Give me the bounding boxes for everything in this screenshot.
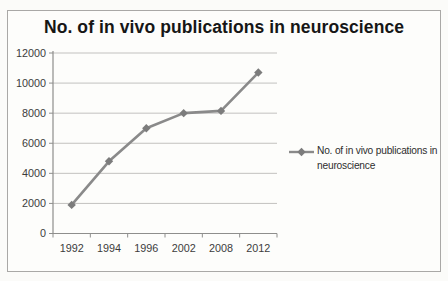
data-point-marker bbox=[179, 109, 187, 117]
scanned-chart-page: No. of in vivo publications in neuroscie… bbox=[0, 0, 448, 281]
legend-label-line2: neuroscience bbox=[317, 159, 437, 174]
legend-label: No. of in vivo publications in neuroscie… bbox=[317, 144, 437, 173]
y-tick-label: 12000 bbox=[16, 47, 46, 59]
y-tick-label: 2000 bbox=[22, 197, 46, 209]
plot-area: 0200040006000800010000120001992199419962… bbox=[0, 0, 448, 281]
x-tick-label: 1992 bbox=[60, 242, 84, 254]
legend-diamond-icon bbox=[297, 148, 305, 156]
legend-label-line1: No. of in vivo publications in bbox=[317, 144, 437, 159]
x-tick-label: 2002 bbox=[172, 242, 196, 254]
x-tick-label: 1996 bbox=[134, 242, 158, 254]
legend-marker-icon bbox=[288, 147, 315, 157]
series-line bbox=[72, 73, 259, 205]
y-tick-label: 0 bbox=[40, 227, 46, 239]
y-tick-label: 4000 bbox=[22, 167, 46, 179]
x-tick-label: 2012 bbox=[246, 242, 270, 254]
legend: No. of in vivo publications in neuroscie… bbox=[288, 144, 440, 173]
x-tick-label: 1994 bbox=[97, 242, 121, 254]
y-tick-label: 8000 bbox=[22, 107, 46, 119]
y-tick-label: 6000 bbox=[22, 137, 46, 149]
x-tick-label: 2008 bbox=[209, 242, 233, 254]
y-tick-label: 10000 bbox=[16, 77, 46, 89]
